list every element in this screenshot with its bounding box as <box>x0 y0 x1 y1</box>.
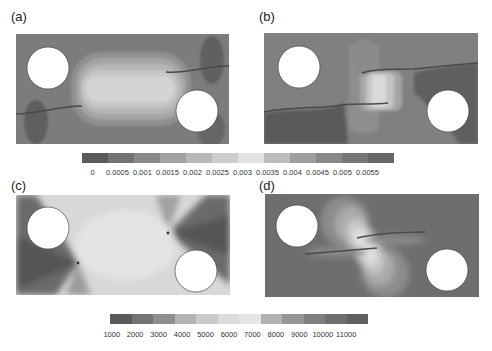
panel-d-label: (d) <box>259 178 275 193</box>
colorbar-segment <box>261 314 283 324</box>
colorbar-segment <box>264 153 290 163</box>
colorbar-segment <box>325 314 347 324</box>
colorbar-segment <box>238 153 264 163</box>
panel-b-label: (b) <box>259 9 275 24</box>
tick-label: 0.002 <box>180 168 205 177</box>
colorbar-segment <box>290 153 316 163</box>
colorbar-segment <box>304 314 326 324</box>
colorbar-segment <box>196 314 218 324</box>
panel-a-plot <box>16 34 229 144</box>
colorbar-segment <box>218 314 240 324</box>
tick-label: 3000 <box>147 330 170 339</box>
colorbar-segment <box>368 153 394 163</box>
colorbar-segment <box>110 314 132 324</box>
panel-a-label: (a) <box>11 9 27 24</box>
colorbar-stress-ticks: 1000 2000 3000 4000 5000 6000 7000 8000 … <box>100 330 358 339</box>
tick-label: 6000 <box>217 330 240 339</box>
tick-label: 1000 <box>100 330 123 339</box>
tick-label: 7000 <box>241 330 264 339</box>
colorbar-segment <box>108 153 134 163</box>
tick-label: 11000 <box>335 330 358 339</box>
colorbar-segment <box>160 153 186 163</box>
tick-label: 0.0035 <box>255 168 280 177</box>
colorbar-strain-ticks: 0 0.0005 0.001 0.0015 0.002 0.0025 0.003… <box>80 168 380 177</box>
tick-label: 2000 <box>123 330 146 339</box>
colorbar-segment <box>316 153 342 163</box>
colorbar-segment <box>175 314 197 324</box>
panel-c-label: (c) <box>11 178 26 193</box>
colorbar-segment <box>153 314 175 324</box>
colorbar-segment <box>82 153 108 163</box>
tick-label: 9000 <box>288 330 311 339</box>
tick-label: 0.0025 <box>205 168 230 177</box>
tick-label: 5000 <box>194 330 217 339</box>
colorbar-segment <box>282 314 304 324</box>
panel-d-plot <box>265 194 479 297</box>
colorbar-segment <box>347 314 369 324</box>
tick-label: 0.0005 <box>105 168 130 177</box>
colorbar-segment <box>186 153 212 163</box>
tick-label: 4000 <box>170 330 193 339</box>
tick-label: 0.0045 <box>305 168 330 177</box>
colorbar-segment <box>212 153 238 163</box>
tick-label: 0.001 <box>130 168 155 177</box>
panel-c-plot <box>16 195 230 295</box>
tick-label: 10000 <box>311 330 334 339</box>
tick-label: 0 <box>80 168 105 177</box>
tick-label: 0.0055 <box>355 168 380 177</box>
colorbar-stress <box>110 314 368 324</box>
tick-label: 0.003 <box>230 168 255 177</box>
colorbar-strain <box>82 153 394 163</box>
tick-label: 8000 <box>264 330 287 339</box>
tick-label: 0.0015 <box>155 168 180 177</box>
tick-label: 0.004 <box>280 168 305 177</box>
tick-label: 0.005 <box>330 168 355 177</box>
panel-b-plot <box>264 33 478 144</box>
colorbar-segment <box>134 153 160 163</box>
colorbar-segment <box>342 153 368 163</box>
colorbar-segment <box>239 314 261 324</box>
colorbar-segment <box>132 314 154 324</box>
